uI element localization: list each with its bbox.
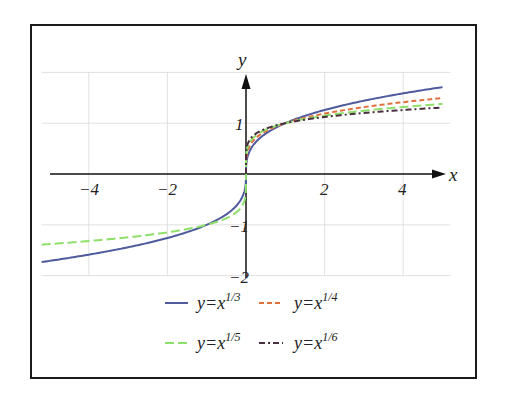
- x-axis-arrow-icon: [432, 170, 446, 179]
- y-axis-label: y: [236, 49, 247, 70]
- legend-item-x14: y=x1/4: [259, 290, 337, 313]
- y-tick-label: −2: [229, 268, 249, 287]
- tick-labels: −4 −2 2 4 1 −1 −2: [79, 115, 407, 287]
- y-tick-label: −1: [229, 217, 249, 236]
- legend-label: y=x1/5: [195, 330, 240, 353]
- legend-item-x15: y=x1/5: [165, 330, 240, 353]
- x-axis-label: x: [448, 164, 458, 185]
- x-tick-label: −2: [157, 180, 177, 199]
- axes: x y: [50, 49, 458, 278]
- curve-2: [246, 98, 443, 174]
- y-axis-arrow-icon: [242, 74, 251, 89]
- x-tick-label: 2: [320, 180, 329, 199]
- x-tick-label: 4: [398, 180, 407, 199]
- legend-label: y=x1/6: [292, 330, 337, 353]
- x-tick-label: −4: [79, 180, 99, 199]
- legend: y=x1/3 y=x1/4 y=x1/5 y=x1/6: [165, 290, 337, 353]
- curve-4: [246, 108, 443, 174]
- legend-label: y=x1/4: [292, 290, 337, 313]
- legend-label: y=x1/3: [195, 290, 240, 313]
- legend-item-x16: y=x1/6: [259, 330, 337, 353]
- legend-item-x13: y=x1/3: [165, 290, 240, 313]
- chart-canvas: x y −4 −2 2 4 1 −1 −2 y=x1/3 y=x1/4 y=x1…: [0, 0, 507, 399]
- y-tick-label: 1: [235, 115, 244, 134]
